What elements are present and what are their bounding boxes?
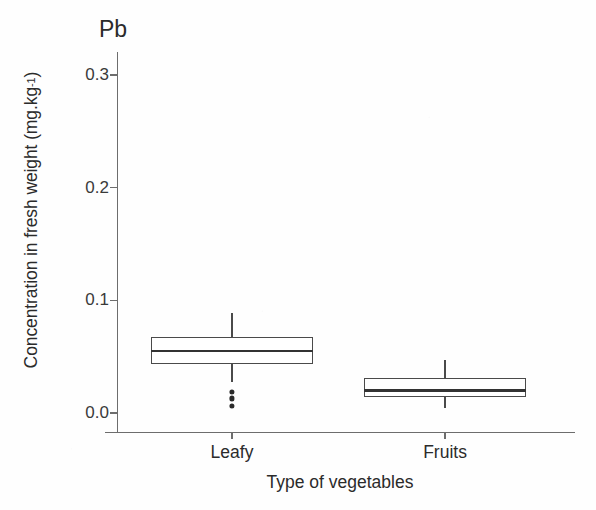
y-tick-label: 0.2: [49, 178, 109, 198]
x-tick-mark: [444, 432, 445, 439]
whisker-lower: [231, 364, 232, 382]
y-tick-label: 0.3: [49, 65, 109, 85]
y-tick-label: 0.0: [49, 403, 109, 423]
y-tick-mark: [110, 74, 117, 75]
box-iqr: [364, 378, 526, 397]
x-tick-label-leafy: Leafy: [152, 442, 312, 463]
y-tick-mark: [110, 412, 117, 413]
outlier-point: [229, 404, 234, 409]
y-tick-mark: [110, 187, 117, 188]
whisker-upper: [444, 360, 445, 378]
x-tick-label-fruits: Fruits: [365, 442, 525, 463]
x-axis-line: [105, 432, 575, 433]
outlier-point: [229, 396, 234, 401]
x-axis-title: Type of vegetables: [105, 472, 575, 493]
y-axis-title-close: ): [21, 72, 42, 78]
outlier-point: [229, 389, 234, 394]
whisker-upper: [231, 313, 232, 337]
y-tick-label: 0.1: [49, 290, 109, 310]
median-line: [151, 350, 313, 352]
y-tick-mark: [110, 300, 117, 301]
x-tick-mark: [231, 432, 232, 439]
y-axis-title-text: Concentration in fresh weight (mg.kg: [21, 87, 42, 368]
whisker-lower: [444, 397, 445, 408]
y-axis-title: Concentration in fresh weight (mg.kg-1): [14, 0, 48, 440]
y-axis-line: [117, 52, 118, 433]
panel-tag-label: Pb: [99, 18, 127, 41]
median-line: [364, 389, 526, 391]
boxplot-figure: Pb Concentration in fresh weight (mg.kg-…: [0, 0, 596, 510]
